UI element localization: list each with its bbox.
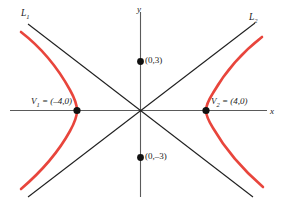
point-vertex-left <box>73 107 80 114</box>
y-axis-label: y <box>137 5 141 14</box>
asymptote-l1-label-subscript: 1 <box>26 13 29 20</box>
hyperbola-right-branch <box>206 37 263 187</box>
point-vertex-right <box>202 107 209 114</box>
asymptote-l2-label-subscript: 2 <box>254 17 257 24</box>
asymptote-l2-label: L2 <box>249 13 258 24</box>
point-label-vertex-right: V2 = (4,0) <box>211 97 248 108</box>
point-label-vertex-left: V1 = (–4,0) <box>31 97 72 108</box>
point-label-conjugate-upper: (0,3) <box>145 56 162 65</box>
point-label-conjugate-lower: (0,–3) <box>145 152 167 161</box>
vertex-right-label-rest: = (4,0) <box>220 96 248 106</box>
point-conjugate-upper <box>137 58 144 65</box>
point-conjugate-lower <box>137 154 144 161</box>
asymptote-l1-label: L1 <box>21 9 30 20</box>
hyperbola-figure: y x L1 L2 (0,3) (0,–3) V1 = (–4,0) V2 = … <box>0 0 291 203</box>
vertex-left-label-rest: = (–4,0) <box>40 96 72 106</box>
x-axis-label: x <box>270 107 274 116</box>
